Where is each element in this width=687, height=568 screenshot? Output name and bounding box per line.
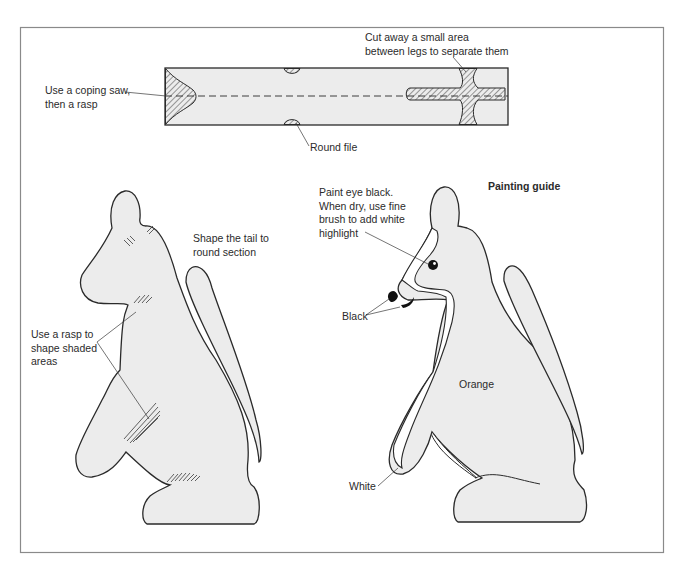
round-file-label-text: Round file xyxy=(310,141,357,153)
black-label-text: Black xyxy=(342,310,368,322)
tail-shape-label: Shape the tail to round section xyxy=(193,232,269,259)
painting-guide-title: Painting guide xyxy=(488,180,560,194)
eye-black xyxy=(428,260,438,270)
black-label: Black xyxy=(342,310,368,324)
coping-saw-label-line1: Use a coping saw, xyxy=(45,84,130,98)
white-label: White xyxy=(349,480,376,494)
leg-cut-label-line2: between legs to separate them xyxy=(365,45,509,59)
white-label-text: White xyxy=(349,480,376,492)
orange-label: Orange xyxy=(459,378,494,392)
rasp-shaded-label-line2: shape shaded xyxy=(31,342,97,356)
eye-paint-label: Paint eye black. When dry, use fine brus… xyxy=(319,186,406,240)
leg-cut-label-line1: Cut away a small area xyxy=(365,31,509,45)
rasp-shaded-label-line1: Use a rasp to xyxy=(31,328,97,342)
eye-highlight xyxy=(433,262,436,265)
tail-shape-label-line2: round section xyxy=(193,246,269,260)
coping-saw-label-line2: then a rasp xyxy=(45,98,130,112)
eye-paint-label-line2: When dry, use fine xyxy=(319,200,406,214)
eye-paint-label-line3: brush to add white xyxy=(319,213,406,227)
leg-cut-label: Cut away a small area between legs to se… xyxy=(365,31,509,58)
orange-label-text: Orange xyxy=(459,378,494,390)
kangaroo-carving-diagram: Use a coping saw, then a rasp Cut away a… xyxy=(0,0,687,568)
eye-paint-label-line1: Paint eye black. xyxy=(319,186,406,200)
eye-paint-label-line4: highlight xyxy=(319,227,406,241)
painting-guide-title-text: Painting guide xyxy=(488,180,560,192)
rasp-shaded-label-line3: areas xyxy=(31,355,97,369)
rasp-shaded-label: Use a rasp to shape shaded areas xyxy=(31,328,97,369)
tail-shape-label-line1: Shape the tail to xyxy=(193,232,269,246)
coping-saw-label: Use a coping saw, then a rasp xyxy=(45,84,130,111)
round-file-label: Round file xyxy=(310,141,357,155)
